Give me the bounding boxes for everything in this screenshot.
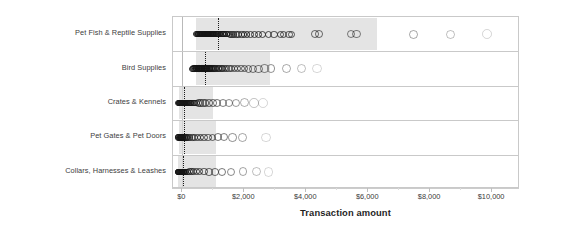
x-minor-tick xyxy=(212,188,213,190)
data-point xyxy=(258,98,268,108)
category-label: Crates & Kennels xyxy=(22,98,166,105)
data-point xyxy=(228,133,236,141)
row-divider xyxy=(173,155,518,156)
data-point xyxy=(264,167,274,177)
data-point xyxy=(261,133,271,143)
data-point xyxy=(232,99,241,108)
plot-area xyxy=(172,16,519,188)
data-point xyxy=(252,167,261,176)
category-label: Collars, Harnesses & Leashes xyxy=(22,167,166,174)
x-axis-title: Transaction amount xyxy=(172,208,519,217)
data-point xyxy=(482,29,492,39)
data-point xyxy=(312,64,322,74)
data-point xyxy=(239,167,248,176)
x-tick-label: $6,000 xyxy=(356,193,379,200)
x-tick-label: $4,000 xyxy=(294,193,317,200)
strip-plot-chart: Pet Fish & Reptile SuppliesBird Supplies… xyxy=(0,0,568,232)
row-divider xyxy=(173,120,518,121)
data-point xyxy=(446,30,455,39)
data-point xyxy=(240,98,249,107)
category-label: Pet Gates & Pet Doors xyxy=(22,132,166,139)
data-point xyxy=(288,31,295,38)
row-divider xyxy=(173,86,518,87)
x-tick-label: $2,000 xyxy=(232,193,255,200)
data-point xyxy=(227,168,235,176)
data-point xyxy=(238,133,247,142)
data-point xyxy=(218,168,226,176)
category-label: Bird Supplies xyxy=(22,64,166,71)
x-tick-label: $8,000 xyxy=(418,193,441,200)
data-point xyxy=(282,64,291,73)
x-axis: Transaction amount $0$2,000$4,000$6,000$… xyxy=(172,188,519,232)
category-label: Pet Fish & Reptile Supplies xyxy=(22,29,166,36)
data-point xyxy=(409,30,418,39)
x-minor-tick xyxy=(398,188,399,190)
data-point xyxy=(220,133,228,141)
x-tick-label: $10,000 xyxy=(478,193,505,200)
x-minor-tick xyxy=(336,188,337,190)
data-point xyxy=(352,30,360,38)
x-minor-tick xyxy=(274,188,275,190)
x-tick-label: $0 xyxy=(177,193,185,200)
x-axis-line xyxy=(172,188,519,189)
category-axis: Pet Fish & Reptile SuppliesBird Supplies… xyxy=(22,16,172,188)
data-point xyxy=(267,64,275,72)
x-minor-tick xyxy=(460,188,461,190)
data-point xyxy=(297,64,306,73)
